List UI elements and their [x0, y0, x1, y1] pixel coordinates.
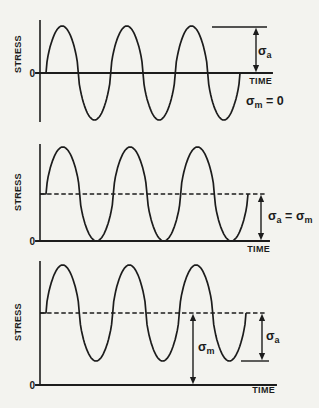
- zero-label: 0: [29, 380, 35, 391]
- time-label: TIME: [252, 385, 275, 395]
- arrowhead-up-icon: [253, 28, 259, 35]
- sigma-a-equals-sigma-m-arrow: [258, 195, 264, 240]
- stress-label: STRESS: [13, 173, 23, 211]
- arrowhead-up-icon: [259, 314, 265, 321]
- sigma-a-label: σa: [258, 44, 273, 60]
- arrowhead-down-icon: [258, 233, 264, 240]
- arrowhead-up-icon: [258, 195, 264, 202]
- time-label: TIME: [249, 76, 272, 86]
- fatigue-stress-cycles-figure: σa TIME σm= 0 0 STRESS σa=σm TIME 0 STRE…: [0, 0, 319, 408]
- arrowhead-down-icon: [259, 353, 265, 360]
- sigma-a-label: σa: [266, 329, 281, 345]
- sigma-a-equals-sigma-m-label: σa=σm: [268, 209, 312, 225]
- arrowhead-up-icon: [190, 314, 196, 321]
- arrowhead-down-icon: [253, 65, 259, 72]
- zero-label: 0: [29, 68, 35, 79]
- stress-label: STRESS: [13, 303, 23, 341]
- panel-reversed-stress: σa TIME σm= 0 0 STRESS: [13, 20, 284, 122]
- sigma-m-equals-zero-label: σm= 0: [246, 94, 284, 110]
- time-label: TIME: [247, 244, 270, 254]
- zero-label: 0: [29, 236, 35, 247]
- sigma-m-label: σm: [198, 340, 215, 356]
- panel-fluctuating-stress: σm σa TIME 0 STRESS: [13, 261, 281, 395]
- stress-label: STRESS: [13, 35, 23, 73]
- sigma-m-arrow: [190, 314, 196, 384]
- arrowhead-down-icon: [190, 377, 196, 384]
- sigma-a-arrow: [259, 314, 265, 360]
- panel-repeated-stress: σa=σm TIME 0 STRESS: [13, 144, 312, 254]
